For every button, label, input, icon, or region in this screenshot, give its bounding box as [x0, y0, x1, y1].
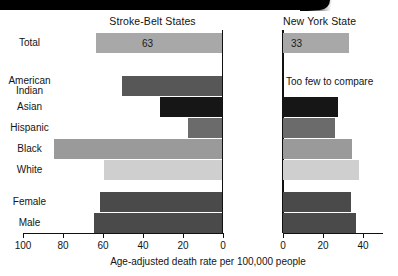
tick-left-0 [223, 233, 224, 238]
bar-left-white [104, 160, 222, 180]
bar-row-left-black [54, 139, 222, 159]
note-too-few-to-compare: Too few to compare [286, 76, 373, 87]
bar-row-left-american-indian [122, 76, 222, 96]
bar-right-female [283, 192, 351, 212]
tick-label-left-20: 20 [177, 240, 188, 251]
x-axis-right [283, 233, 383, 234]
bar-row-right-asian [283, 97, 338, 117]
category-label-total: Total [0, 38, 59, 49]
category-label-hispanic: Hispanic [0, 123, 59, 134]
tick-right-40 [363, 233, 364, 238]
bar-right-asian [283, 97, 338, 117]
tick-label-right-0: 0 [280, 240, 286, 251]
bar-row-right-white [283, 160, 359, 180]
bar-value-right-total: 33 [291, 38, 302, 49]
tick-label-left-100: 100 [15, 240, 32, 251]
bar-row-left-hispanic [188, 118, 222, 138]
tick-left-100 [23, 233, 24, 238]
bar-row-right-female [283, 192, 351, 212]
chart-root: Stroke-Belt States New York State Age-ad… [0, 0, 398, 276]
bar-left-asian [160, 97, 222, 117]
tick-right-0 [283, 233, 284, 238]
tick-label-left-60: 60 [97, 240, 108, 251]
category-label-male: Male [0, 218, 59, 229]
bar-row-left-female [100, 192, 222, 212]
bar-right-black [283, 139, 352, 159]
bar-right-hispanic [283, 118, 335, 138]
top-black-band-taper [300, 0, 340, 11]
x-axis-caption: Age-adjusted death rate per 100,000 peop… [0, 256, 398, 267]
bar-left-male [94, 213, 222, 233]
tick-label-left-80: 80 [57, 240, 68, 251]
bar-row-right-hispanic [283, 118, 335, 138]
panel-title-right: New York State [283, 15, 398, 27]
category-label-american-indian: AmericanIndian [0, 76, 59, 95]
tick-label-right-20: 20 [317, 240, 328, 251]
bar-left-total [96, 33, 222, 53]
bar-row-right-male [283, 213, 356, 233]
category-label-white: White [0, 165, 59, 176]
tick-label-left-40: 40 [137, 240, 148, 251]
bar-left-black [54, 139, 222, 159]
bar-right-male [283, 213, 356, 233]
bar-row-left-total: 63 [96, 33, 222, 53]
bar-row-right-total: 33 [283, 33, 349, 53]
bar-row-left-male [94, 213, 222, 233]
category-label-asian: Asian [0, 102, 59, 113]
tick-left-80 [63, 233, 64, 238]
panel-title-left: Stroke-Belt States [80, 15, 225, 27]
category-label-column [223, 30, 282, 233]
bar-value-left-total: 63 [142, 38, 153, 49]
tick-left-40 [143, 233, 144, 238]
category-label-female: Female [0, 197, 59, 208]
bar-row-right-black [283, 139, 352, 159]
tick-left-60 [103, 233, 104, 238]
tick-left-20 [183, 233, 184, 238]
bar-row-left-asian [160, 97, 222, 117]
top-black-band [0, 0, 330, 10]
bar-left-hispanic [188, 118, 222, 138]
tick-label-right-40: 40 [357, 240, 368, 251]
tick-right-20 [323, 233, 324, 238]
bar-left-female [100, 192, 222, 212]
category-label-black: Black [0, 144, 59, 155]
x-axis-left [23, 233, 223, 234]
bar-left-american-indian [122, 76, 222, 96]
bar-right-white [283, 160, 359, 180]
tick-label-left-0: 0 [220, 240, 226, 251]
bar-row-left-white [104, 160, 222, 180]
